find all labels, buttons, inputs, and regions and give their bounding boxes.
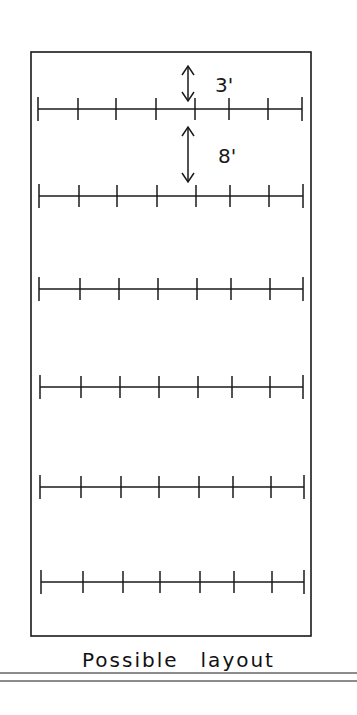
planting-row bbox=[41, 570, 304, 594]
dimension-arrow: 8' bbox=[182, 127, 236, 182]
planting-row bbox=[38, 97, 302, 121]
caption-word-possible: Possible bbox=[82, 648, 179, 672]
dimension-arrow: 3' bbox=[182, 66, 233, 101]
planting-row bbox=[39, 184, 303, 208]
caption-word-layout: layout bbox=[201, 648, 275, 672]
dimension-annotations: 3'8' bbox=[182, 66, 236, 182]
planting-row bbox=[39, 277, 303, 301]
planting-rows bbox=[38, 97, 304, 594]
planting-row bbox=[40, 375, 303, 399]
planting-row bbox=[40, 475, 304, 499]
dimension-label: 8' bbox=[218, 144, 236, 168]
field-boundary-frame bbox=[31, 52, 311, 636]
dimension-label: 3' bbox=[215, 73, 233, 97]
layout-diagram: 3'8' bbox=[0, 0, 357, 715]
diagram-caption: Possiblelayout bbox=[0, 648, 357, 672]
caption-underlines bbox=[0, 673, 357, 681]
